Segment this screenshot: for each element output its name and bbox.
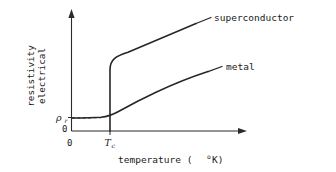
chart-canvas: superconductor metal ρ r 0 0 T c tempera… bbox=[0, 0, 336, 172]
y-axis-arrowhead bbox=[68, 9, 74, 18]
x-tick-label-tc-subscript: c bbox=[112, 142, 116, 149]
series-metal-curve bbox=[72, 72, 208, 118]
axes-group bbox=[68, 9, 247, 134]
x-axis-arrowhead bbox=[238, 128, 247, 134]
x-axis-title: temperature ( o K) bbox=[118, 153, 223, 166]
label-leaders-group bbox=[196, 18, 222, 72]
x-axis-title-superscript: o bbox=[207, 153, 211, 161]
series-label-metal: metal bbox=[226, 61, 255, 72]
superconductor-leader-line bbox=[196, 18, 211, 24]
x-axis-title-closing: K) bbox=[212, 154, 223, 165]
metal-leader-line bbox=[208, 67, 222, 72]
x-tick-label-zero: 0 bbox=[67, 138, 72, 148]
series-superconductor-curve bbox=[110, 24, 196, 132]
y-tick-label-rho: ρ bbox=[55, 112, 62, 123]
resistivity-temperature-figure: superconductor metal ρ r 0 0 T c tempera… bbox=[0, 0, 336, 172]
data-curves-group bbox=[72, 24, 208, 132]
y-tick-label-zero: 0 bbox=[62, 124, 67, 134]
y-tick-label-rho-subscript: r bbox=[65, 117, 69, 124]
x-tick-label-tc: T bbox=[105, 137, 112, 148]
x-axis-title-main: temperature ( bbox=[118, 154, 192, 165]
series-label-superconductor: superconductor bbox=[214, 12, 294, 23]
tick-marks-group bbox=[68, 118, 110, 136]
